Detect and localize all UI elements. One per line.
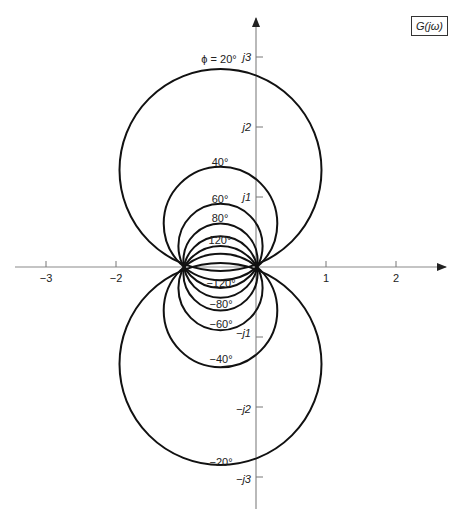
label-phi-60: 60° — [212, 193, 229, 205]
imag-tick-label: j2 — [240, 121, 251, 133]
real-tick-label: 2 — [393, 272, 399, 284]
label-phi-20: ϕ = 20° — [201, 53, 236, 65]
label-phi-minus-120: −120° — [206, 277, 235, 289]
real-tick-label: −2 — [110, 272, 123, 284]
label-phi-40: 40° — [212, 156, 229, 168]
label-phi-minus-60: −60° — [209, 318, 232, 330]
imag-tick-label: −j2 — [236, 403, 251, 415]
real-tick-label: −3 — [40, 272, 53, 284]
label-phi-80: 80° — [212, 212, 229, 224]
label-phi-minus-40: −40° — [209, 353, 232, 365]
circle-labels: ϕ = 20° 40° 60° 80° 120° −120° −80° −60°… — [201, 53, 236, 468]
label-phi-minus-20: −20° — [209, 456, 232, 468]
imag-tick-label: j1 — [240, 191, 251, 203]
imag-tick-label: j3 — [240, 51, 251, 63]
label-phi-minus-80: −80° — [209, 298, 232, 310]
imag-tick-label: −j1 — [236, 327, 251, 339]
real-tick-label: 1 — [323, 272, 329, 284]
imag-tick-label: −j3 — [236, 473, 252, 485]
label-phi-120: 120° — [209, 234, 232, 246]
nyquist-phase-circles-diagram: −3 −2 1 2 j3 j2 j1 −j1 −j2 −j3 ϕ = 20° 4… — [0, 0, 455, 520]
